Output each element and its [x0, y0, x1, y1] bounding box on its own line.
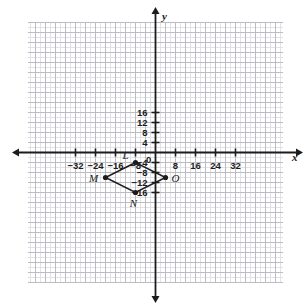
- vertex-point-n: [133, 190, 138, 195]
- y-tick-label: 4: [142, 137, 148, 148]
- coordinate-plane-svg: −32−24−16−88162432161284−4−8−12−16 x y 0…: [0, 0, 308, 307]
- origin-label: 0: [146, 154, 151, 165]
- x-tick-label: −32: [67, 160, 83, 171]
- figure-background: [0, 0, 308, 307]
- vertex-point-l: [133, 160, 138, 165]
- x-tick-label: 8: [173, 160, 178, 171]
- coordinate-plane-figure: −32−24−16−88162432161284−4−8−12−16 x y 0…: [0, 0, 308, 307]
- x-tick-label: 16: [190, 160, 201, 171]
- vertex-label-o: O: [172, 172, 180, 184]
- vertex-label-n: N: [129, 197, 138, 209]
- vertex-point-o: [163, 175, 168, 180]
- vertex-label-l: L: [121, 149, 128, 161]
- x-tick-label: −24: [87, 160, 104, 171]
- x-axis-label: x: [291, 151, 298, 163]
- y-axis-label: y: [160, 10, 167, 22]
- x-tick-label: 32: [230, 160, 241, 171]
- vertex-label-m: M: [88, 172, 99, 184]
- x-tick-label: 24: [210, 160, 221, 171]
- vertex-point-m: [103, 175, 108, 180]
